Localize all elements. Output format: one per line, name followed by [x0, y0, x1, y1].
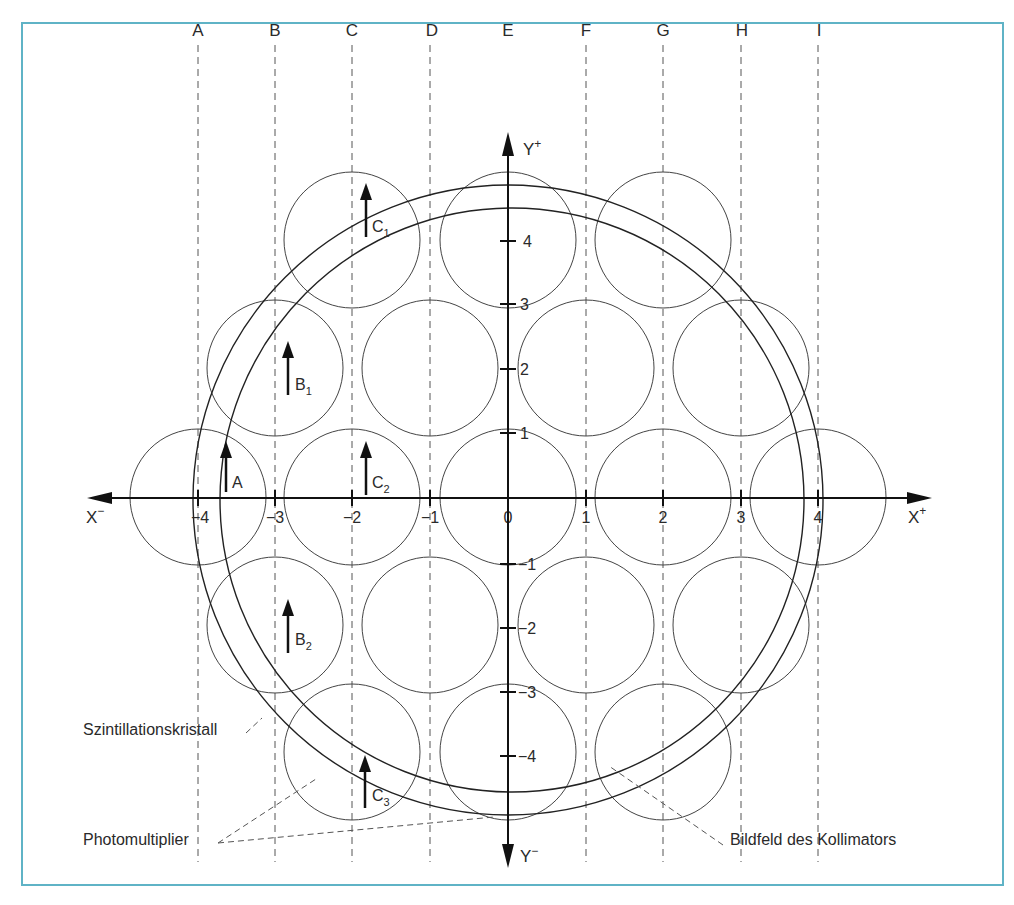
column-label-a: A: [192, 21, 204, 40]
column-label-f: F: [581, 21, 591, 40]
arrow-up-icon: [282, 341, 294, 358]
svg-text:A: A: [232, 474, 243, 491]
photomultiplier-circle: [207, 300, 343, 436]
x-tick-label: 2: [659, 509, 668, 526]
x-tick-label: −3: [266, 509, 284, 526]
column-label-c: C: [346, 21, 358, 40]
y-tick-label: −3: [518, 684, 536, 701]
arrow-up-icon: [360, 441, 372, 458]
y-minus-label: Y−: [520, 844, 538, 866]
column-label-e: E: [502, 21, 513, 40]
x-minus-arrowhead-icon: [87, 492, 112, 504]
y-minus-arrowhead-icon: [502, 844, 514, 868]
svg-text:C2: C2: [372, 474, 390, 495]
collimator-field-circle: [220, 208, 804, 792]
x-tick-label: 3: [737, 509, 746, 526]
photomultiplier-label: Photomultiplier: [83, 831, 190, 848]
column-label-g: G: [656, 21, 669, 40]
arrow-b1: B1: [282, 341, 312, 397]
arrow-c1: C1: [360, 183, 390, 239]
column-label-d: D: [426, 21, 438, 40]
photomultiplier-circle: [518, 300, 654, 436]
x-minus-label: X−: [86, 504, 104, 527]
x-tick-label: −2: [343, 509, 361, 526]
arrow-up-icon: [359, 755, 371, 772]
collimator-field-label: Bildfeld des Kollimators: [730, 831, 896, 848]
gamma-camera-diagram: A B C D E F G H I: [0, 0, 1014, 905]
arrow-a: A: [220, 441, 243, 492]
y-tick-label: −2: [518, 620, 536, 637]
svg-text:B2: B2: [295, 631, 312, 652]
svg-text:C1: C1: [372, 218, 390, 239]
y-axis: 4 3 2 1 −1 −2 −3 −4 Y+ Y−: [500, 132, 541, 868]
svg-text:B1: B1: [295, 376, 312, 397]
scintillation-crystal-label: Szintillationskristall: [83, 721, 217, 738]
photomultiplier-circle: [595, 684, 731, 820]
x-tick-label: 4: [814, 509, 823, 526]
photomultiplier-circle: [362, 300, 498, 436]
y-plus-arrowhead-icon: [502, 132, 514, 156]
y-tick-label: 2: [520, 361, 529, 378]
arrow-b2: B2: [282, 599, 312, 653]
arrow-up-icon: [282, 599, 294, 616]
arrow-c2: C2: [360, 441, 390, 495]
x-tick-label: −1: [421, 509, 439, 526]
column-label-h: H: [736, 21, 748, 40]
x-tick-label: 1: [582, 509, 591, 526]
y-tick-label: −4: [518, 748, 536, 765]
y-plus-label: Y+: [523, 137, 541, 159]
arrow-up-icon: [220, 441, 232, 458]
x-plus-label: X+: [908, 504, 926, 527]
column-label-i: I: [817, 21, 822, 40]
y-tick-label: 4: [523, 233, 532, 250]
x-plus-arrowhead-icon: [907, 492, 932, 504]
position-arrows: A B1 B2 C1 C2 C3: [220, 183, 390, 808]
arrow-up-icon: [360, 183, 372, 200]
y-tick-label: −1: [518, 556, 536, 573]
column-label-b: B: [269, 21, 280, 40]
photomultiplier-circle: [673, 300, 809, 436]
y-tick-label: 3: [520, 296, 529, 313]
x-tick-label: −4: [191, 509, 209, 526]
y-tick-label: 1: [520, 425, 529, 442]
leader-lines: [218, 718, 723, 845]
